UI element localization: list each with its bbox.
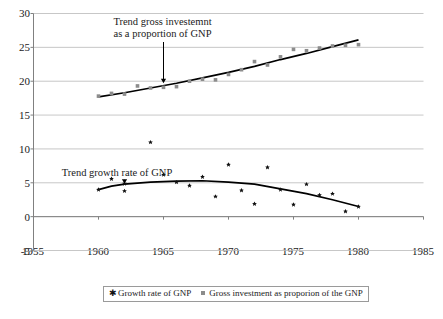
data-point-investment	[188, 79, 192, 83]
chart-container: 30 25 20 15 10 5 0 -5 1955 1960 1965 197…	[0, 0, 443, 319]
data-point-investment	[305, 49, 309, 53]
data-point-growth	[213, 194, 218, 198]
data-point-investment	[110, 92, 114, 96]
data-point-growth	[122, 189, 127, 193]
data-point-investment	[123, 92, 127, 96]
data-point-investment	[266, 63, 270, 67]
data-point-growth	[265, 165, 270, 169]
legend-label-growth-rate: Growth rate of GNP	[118, 288, 191, 299]
growth-annotation: Trend growth rate of GNP	[52, 167, 182, 179]
investment-annotation-line2: as a proportion of GNP	[95, 28, 230, 40]
data-point-investment	[214, 78, 218, 82]
legend-label-gross-investment: Gross investment as proporion of the GNP	[209, 288, 362, 299]
data-point-investment	[201, 77, 205, 81]
data-point-investment	[344, 44, 348, 48]
data-point-investment	[227, 73, 231, 77]
investment-annotation-line1: Trend gross investemnt	[95, 16, 230, 28]
data-point-investment	[136, 84, 140, 88]
data-point-growth	[200, 174, 205, 178]
data-point-growth	[330, 191, 335, 195]
data-point-investment	[97, 94, 101, 98]
data-point-growth	[148, 140, 153, 144]
data-point-investment	[162, 86, 166, 90]
data-point-growth	[187, 183, 192, 187]
data-point-investment	[292, 48, 296, 52]
data-point-growth	[356, 204, 361, 208]
data-point-investment	[357, 43, 361, 47]
data-point-investment	[279, 55, 283, 59]
investment-annotation-arrow-icon	[161, 42, 166, 83]
data-point-growth	[226, 162, 231, 166]
data-point-growth	[96, 187, 101, 191]
data-point-investment	[253, 60, 257, 64]
chart-legend: ✱ Growth rate of GNP Gross investment as…	[103, 286, 369, 302]
data-point-growth	[252, 202, 257, 206]
data-point-investment	[331, 44, 335, 48]
plot-area	[0, 0, 443, 319]
data-point-growth	[343, 209, 348, 213]
star-marker-icon: ✱	[109, 289, 116, 298]
legend-item-gross-investment: Gross investment as proporion of the GNP	[200, 288, 362, 299]
investment-annotation: Trend gross investemnt as a proportion o…	[95, 16, 230, 40]
square-marker-icon	[200, 289, 207, 298]
data-point-investment	[240, 68, 244, 72]
growth-annotation-line1: Trend growth rate of GNP	[52, 167, 182, 179]
data-point-investment	[318, 46, 322, 50]
legend-item-growth-rate: ✱ Growth rate of GNP	[109, 288, 191, 299]
data-point-investment	[149, 86, 153, 90]
data-point-growth	[239, 188, 244, 192]
data-point-growth	[291, 202, 296, 206]
data-point-investment	[175, 85, 179, 89]
